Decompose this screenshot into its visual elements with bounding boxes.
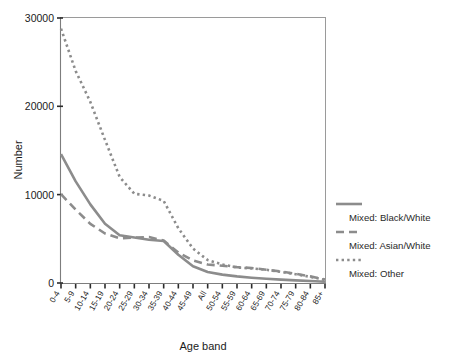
x-axis-ticks xyxy=(61,284,325,289)
plot-frame xyxy=(60,17,326,284)
x-tick-label-All: All xyxy=(196,289,208,302)
y-tick-label-10000: 10000 xyxy=(25,189,54,201)
chart-figure: 30000 20000 10000 0 Number 0-45-910-1415… xyxy=(0,0,451,363)
x-tick-label-45-49: 45-49 xyxy=(175,289,193,312)
x-tick-label-0-4: 0-4 xyxy=(48,289,62,304)
series-line-mixed-other xyxy=(61,29,325,280)
x-axis-tick-labels: 0-45-910-1415-1920-2425-2930-3435-3940-4… xyxy=(48,289,326,312)
legend-label-other: Mixed: Other xyxy=(349,268,405,279)
chart-legend: Mixed: Black/White Mixed: Asian/White Mi… xyxy=(336,204,431,279)
y-tick-label-0: 0 xyxy=(48,277,54,289)
legend-label-black-white: Mixed: Black/White xyxy=(349,212,431,223)
series-line-mixed-black-white xyxy=(61,154,325,282)
y-axis-title: Number xyxy=(12,140,24,179)
y-tick-label-20000: 20000 xyxy=(25,100,54,112)
data-series-group xyxy=(61,29,325,282)
line-chart-svg: 30000 20000 10000 0 Number 0-45-910-1415… xyxy=(0,0,451,363)
x-axis-title: Age band xyxy=(179,340,226,352)
x-tick-label-5-9: 5-9 xyxy=(63,289,77,304)
x-tick-label-80-84: 80-84 xyxy=(293,289,311,312)
legend-label-asian-white: Mixed: Asian/White xyxy=(349,240,431,251)
y-axis-tick-labels: 30000 20000 10000 0 xyxy=(25,12,54,289)
y-tick-label-30000: 30000 xyxy=(25,12,54,24)
x-tick-label-85+: 85+ xyxy=(311,289,326,306)
